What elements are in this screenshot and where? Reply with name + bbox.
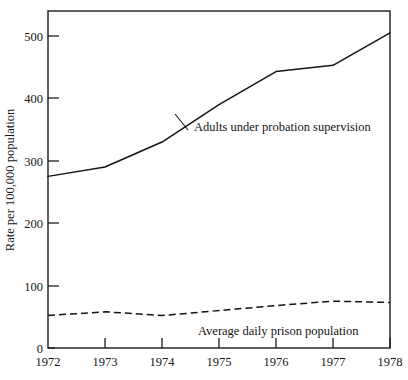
x-tick-label-1976: 1976 <box>264 355 289 369</box>
y-tick-label-500: 500 <box>24 30 43 44</box>
y-tick-label-300: 300 <box>24 155 43 169</box>
line-chart: 500 400 300 200 100 0 Rate per 100,000 p… <box>0 0 408 380</box>
y-axis-ticks <box>48 36 59 348</box>
x-tick-label-1975: 1975 <box>207 355 232 369</box>
x-axis-ticks <box>105 338 390 348</box>
series-label-prison: Average daily prison population <box>198 324 359 338</box>
series-line-prison <box>48 301 390 315</box>
x-tick-label-1974: 1974 <box>150 355 176 369</box>
y-axis-title: Rate per 100,000 population <box>3 108 17 251</box>
series-line-probation <box>48 33 390 177</box>
y-tick-label-100: 100 <box>24 280 43 294</box>
y-tick-label-0: 0 <box>37 342 43 356</box>
x-tick-label-1977: 1977 <box>321 355 346 369</box>
y-tick-label-400: 400 <box>24 92 43 106</box>
y-tick-label-200: 200 <box>24 217 43 231</box>
probation-leader-line <box>175 114 188 130</box>
x-tick-label-1972: 1972 <box>36 355 61 369</box>
x-tick-label-1973: 1973 <box>93 355 118 369</box>
series-label-probation: Adults under probation supervision <box>194 120 371 134</box>
x-tick-label-1978: 1978 <box>378 355 403 369</box>
x-axis-tick-labels: 1972 1973 1974 1975 1976 1977 1978 <box>36 355 403 369</box>
y-axis-tick-labels: 500 400 300 200 100 0 <box>24 30 43 356</box>
chart-container: 500 400 300 200 100 0 Rate per 100,000 p… <box>0 0 408 380</box>
